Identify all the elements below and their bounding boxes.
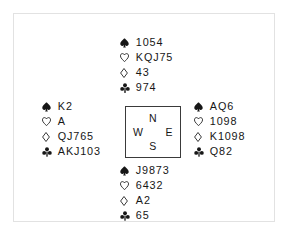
south-heart-row: 6432	[120, 178, 172, 193]
east-heart-row: 1098	[194, 114, 248, 129]
north-diamond-holding: 43	[133, 65, 150, 80]
club-suit-icon	[42, 147, 55, 157]
east-diamond-holding: K1098	[207, 129, 245, 144]
west-spade-row: K2	[42, 99, 104, 114]
south-spade-row: J9873	[120, 163, 172, 178]
south-spade-holding: J9873	[133, 163, 170, 178]
heart-suit-icon	[194, 117, 207, 126]
west-heart-holding: A	[55, 114, 66, 129]
west-diamond-row: QJ765	[42, 129, 104, 144]
spade-suit-icon	[120, 38, 133, 48]
south-club-holding: 65	[133, 208, 150, 223]
club-suit-icon	[120, 211, 133, 221]
hand-east: AQ6 1098 K1098	[194, 99, 248, 159]
spade-suit-icon	[194, 102, 207, 112]
compass-label-east: E	[165, 127, 173, 138]
heart-suit-icon	[120, 181, 133, 190]
hand-north: 1054 KQJ75 43	[120, 35, 176, 95]
south-diamond-row: A2	[120, 193, 172, 208]
compass-label-north: N	[126, 113, 180, 124]
east-spade-row: AQ6	[194, 99, 248, 114]
club-suit-icon	[194, 147, 207, 157]
spade-suit-icon	[42, 102, 55, 112]
north-spade-row: 1054	[120, 35, 176, 50]
diamond-suit-icon	[42, 132, 55, 142]
west-heart-row: A	[42, 114, 104, 129]
bridge-deal-diagram: 1054 KQJ75 43	[0, 0, 289, 240]
west-club-holding: AKJ103	[55, 144, 101, 159]
compass-box: N W E S	[125, 106, 181, 158]
spade-suit-icon	[120, 166, 133, 176]
north-heart-holding: KQJ75	[133, 50, 173, 65]
diamond-suit-icon	[120, 196, 133, 206]
heart-suit-icon	[42, 117, 55, 126]
diamond-suit-icon	[194, 132, 207, 142]
hand-south: J9873 6432 A2	[120, 163, 172, 223]
north-club-row: 974	[120, 80, 176, 95]
south-club-row: 65	[120, 208, 172, 223]
compass-label-south: S	[126, 141, 180, 152]
east-diamond-row: K1098	[194, 129, 248, 144]
compass-label-west: W	[133, 127, 143, 138]
west-diamond-holding: QJ765	[55, 129, 94, 144]
club-suit-icon	[120, 83, 133, 93]
north-club-holding: 974	[133, 80, 156, 95]
north-spade-holding: 1054	[133, 35, 163, 50]
north-heart-row: KQJ75	[120, 50, 176, 65]
east-club-holding: Q82	[207, 144, 233, 159]
heart-suit-icon	[120, 53, 133, 62]
south-diamond-holding: A2	[133, 193, 151, 208]
hand-west: K2 A QJ765	[42, 99, 104, 159]
east-club-row: Q82	[194, 144, 248, 159]
diamond-suit-icon	[120, 68, 133, 78]
west-spade-holding: K2	[55, 99, 73, 114]
diagram-frame: 1054 KQJ75 43	[13, 13, 275, 222]
west-club-row: AKJ103	[42, 144, 104, 159]
east-heart-holding: 1098	[207, 114, 237, 129]
north-diamond-row: 43	[120, 65, 176, 80]
south-heart-holding: 6432	[133, 178, 163, 193]
east-spade-holding: AQ6	[207, 99, 234, 114]
